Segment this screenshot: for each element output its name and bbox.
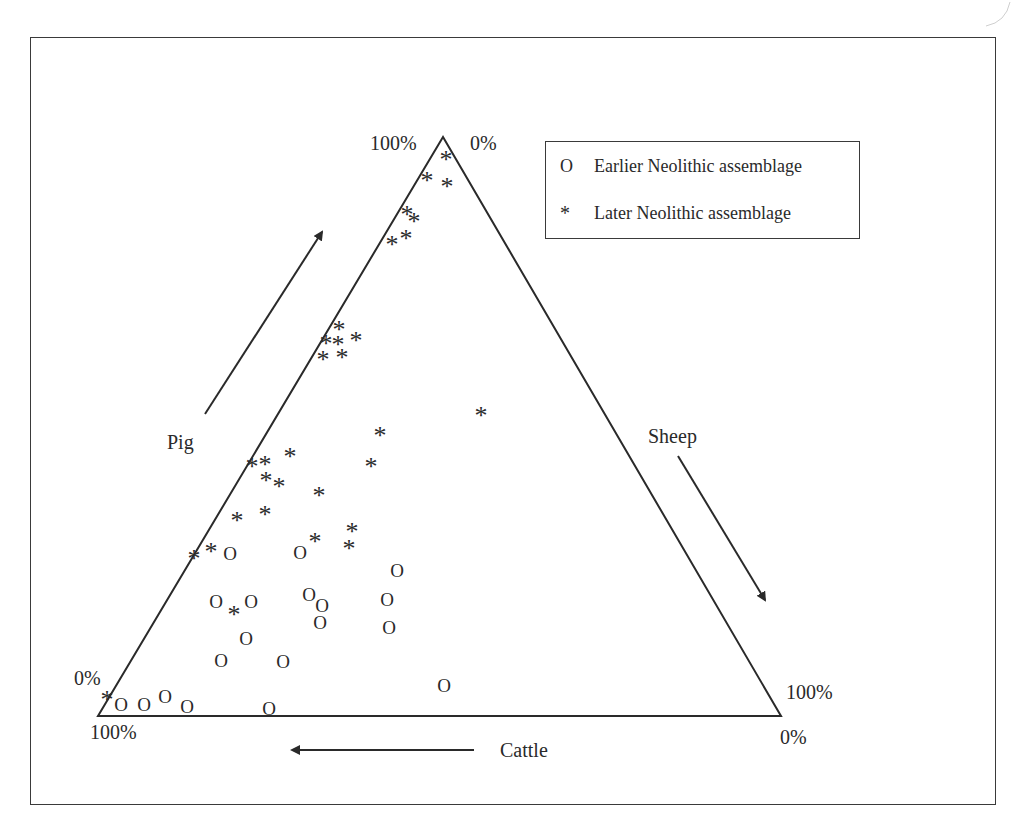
legend: O Earlier Neolithic assemblage * Later N… <box>545 141 860 239</box>
later-neolithic-point: * <box>365 452 378 481</box>
asterisk-marker-icon: * <box>560 202 594 225</box>
later-neolithic-point: * <box>101 685 114 714</box>
later-neolithic-point: * <box>205 537 218 566</box>
earlier-neolithic-point: O <box>302 584 316 605</box>
earlier-neolithic-point: O <box>137 694 151 715</box>
ternary-plot: OOOOOOOOOOOOOOOOOOO*********************… <box>0 0 1014 838</box>
earlier-neolithic-point: O <box>390 560 404 581</box>
pig-axis-label: Pig <box>167 432 194 452</box>
later-neolithic-point: * <box>336 343 349 372</box>
earlier-neolithic-point: O <box>223 543 237 564</box>
legend-item-earlier: O Earlier Neolithic assemblage <box>560 156 802 177</box>
later-neolithic-point: * <box>284 442 297 471</box>
earlier-neolithic-point: O <box>313 612 327 633</box>
top-left-pct: 100% <box>370 133 417 153</box>
later-neolithic-point: * <box>259 500 272 529</box>
later-neolithic-point: * <box>228 600 241 629</box>
later-neolithic-point: * <box>246 452 259 481</box>
bottom-right-pct: 0% <box>780 727 807 747</box>
later-neolithic-point: * <box>188 544 201 573</box>
earlier-neolithic-point: O <box>239 628 253 649</box>
later-neolithic-point: * <box>440 145 453 174</box>
sheep-arrow <box>678 456 765 600</box>
data-points: OOOOOOOOOOOOOOOOOOO*********************… <box>101 145 488 719</box>
earlier-neolithic-point: O <box>380 589 394 610</box>
later-neolithic-point: * <box>317 345 330 374</box>
right-pct: 100% <box>786 682 833 702</box>
earlier-neolithic-point: O <box>262 698 276 719</box>
later-neolithic-point: * <box>400 224 413 253</box>
earlier-neolithic-point: O <box>276 651 290 672</box>
later-neolithic-point: * <box>343 534 356 563</box>
later-neolithic-point: * <box>421 166 434 195</box>
earlier-neolithic-point: O <box>214 650 228 671</box>
earlier-neolithic-point: O <box>158 686 172 707</box>
later-neolithic-point: * <box>231 506 244 535</box>
left-pct: 0% <box>74 668 101 688</box>
earlier-neolithic-point: O <box>293 542 307 563</box>
earlier-neolithic-point: O <box>209 591 223 612</box>
pig-arrow <box>205 232 322 414</box>
later-neolithic-point: * <box>260 466 273 495</box>
legend-label-earlier: Earlier Neolithic assemblage <box>594 156 802 177</box>
earlier-neolithic-point: O <box>244 591 258 612</box>
earlier-neolithic-point: O <box>382 617 396 638</box>
circle-marker-icon: O <box>560 156 594 177</box>
later-neolithic-point: * <box>386 230 399 259</box>
earlier-neolithic-point: O <box>180 696 194 717</box>
legend-item-later: * Later Neolithic assemblage <box>560 202 791 225</box>
later-neolithic-point: * <box>313 481 326 510</box>
later-neolithic-point: * <box>374 421 387 450</box>
top-right-pct: 0% <box>470 133 497 153</box>
legend-label-later: Later Neolithic assemblage <box>594 203 791 224</box>
later-neolithic-point: * <box>350 326 363 355</box>
sheep-axis-label: Sheep <box>648 426 697 446</box>
bottom-left-pct: 100% <box>90 722 137 742</box>
later-neolithic-point: * <box>441 172 454 201</box>
earlier-neolithic-point: O <box>114 694 128 715</box>
page-corner-curl <box>984 0 1014 30</box>
later-neolithic-point: * <box>309 527 322 556</box>
earlier-neolithic-point: O <box>437 675 451 696</box>
later-neolithic-point: * <box>475 401 488 430</box>
cattle-axis-label: Cattle <box>500 740 548 760</box>
later-neolithic-point: * <box>273 472 286 501</box>
